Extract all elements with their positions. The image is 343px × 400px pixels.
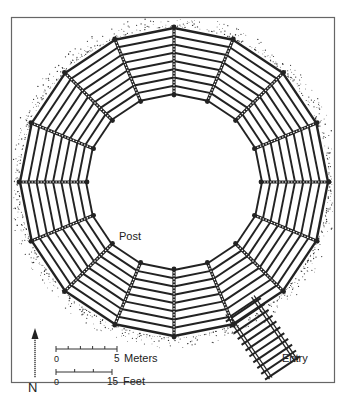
structure-plan-diagram xyxy=(0,0,343,400)
feet-scale-unit: Feet xyxy=(123,375,145,387)
north-label: N xyxy=(28,381,37,394)
meters-scale-start: 0 xyxy=(54,354,59,364)
feet-scale-start: 0 xyxy=(54,377,59,387)
post-label: Post xyxy=(119,230,141,242)
entry-label: Entry xyxy=(282,352,308,364)
meters-scale-end: 5 xyxy=(114,353,120,364)
feet-scale-end: 15 xyxy=(107,376,118,387)
meters-scale-unit: Meters xyxy=(124,352,158,364)
